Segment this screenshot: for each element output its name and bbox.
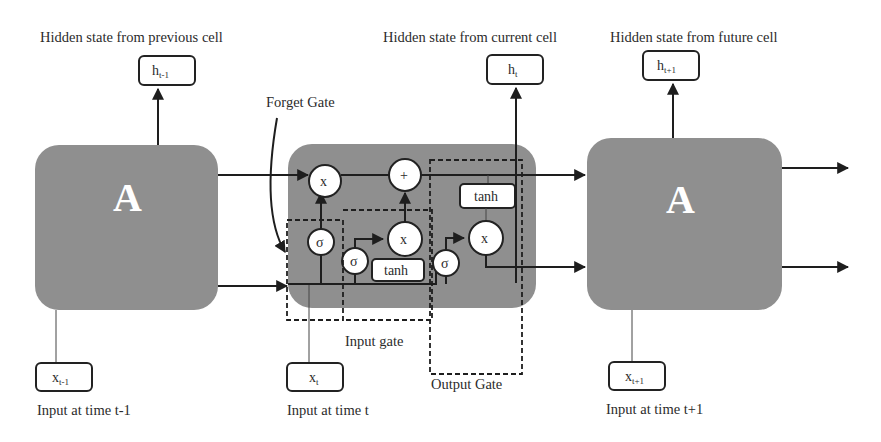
input-sigmoid-node: σ	[342, 248, 368, 274]
input-prev-box: xt-1	[36, 363, 92, 391]
svg-text:tanh: tanh	[474, 189, 498, 204]
svg-text:x: x	[481, 231, 488, 246]
h-prev-base: h	[152, 63, 159, 78]
label-hidden-prev: Hidden state from previous cell	[40, 29, 223, 45]
cell-right: A	[587, 138, 782, 310]
label-input-future: Input at time t+1	[606, 401, 703, 417]
svg-text:+: +	[400, 168, 408, 183]
label-hidden-future: Hidden state from future cell	[610, 29, 778, 45]
label-input-prev: Input at time t-1	[37, 402, 131, 418]
output-sigmoid-node: σ	[433, 250, 459, 276]
cell-left: A	[35, 145, 218, 310]
h-prev-sub: t-1	[159, 70, 169, 80]
svg-text:σ: σ	[441, 256, 449, 271]
hidden-state-future-box: ht+1	[643, 51, 699, 80]
label-output-gate: Output Gate	[431, 376, 502, 392]
add-node: +	[389, 159, 421, 191]
label-input-current: Input at time t	[287, 402, 369, 418]
svg-text:tanh: tanh	[384, 263, 408, 278]
svg-text:σ: σ	[350, 254, 358, 269]
cell-right-label: A	[666, 177, 695, 222]
svg-text:x: x	[320, 174, 327, 189]
forget-gate-pointer-arrow	[270, 118, 285, 252]
label-hidden-current: Hidden state from current cell	[383, 29, 557, 45]
label-input-gate: Input gate	[345, 333, 403, 349]
cell-left-label: A	[113, 175, 142, 220]
h-future-sub: t+1	[664, 65, 676, 75]
output-multiply-node: x	[469, 221, 503, 255]
hidden-state-prev-box: ht-1	[139, 56, 195, 85]
svg-text:x: x	[400, 232, 407, 247]
input-tanh-box: tanh	[372, 259, 424, 281]
input-future-box: xt+1	[609, 362, 665, 390]
h-future-base: h	[657, 58, 664, 73]
input-current-box: xt	[287, 363, 343, 391]
label-forget-gate: Forget Gate	[266, 94, 335, 110]
forget-sigmoid-node: σ	[308, 229, 334, 255]
h-current-base: h	[508, 62, 515, 77]
forget-multiply-node: x	[309, 165, 341, 197]
hidden-state-current-box: ht	[487, 55, 543, 84]
input-multiply-node: x	[388, 222, 422, 256]
output-tanh-box: tanh	[460, 184, 515, 208]
lstm-diagram: Hidden state from previous cell Hidden s…	[0, 0, 881, 442]
svg-text:σ: σ	[316, 235, 324, 250]
